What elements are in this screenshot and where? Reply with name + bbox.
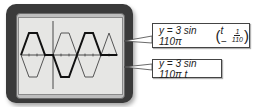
equation-var: t − bbox=[221, 25, 231, 47]
fraction-denominator: 110 bbox=[232, 36, 243, 43]
equation-prefix: y = 3 sin 110π bbox=[159, 25, 216, 47]
fraction-numerator: 1 bbox=[234, 28, 240, 36]
paren-close: ) bbox=[244, 28, 249, 43]
callout-shifted-equation: y = 3 sin 110π ( t − 1 110 ) bbox=[152, 23, 250, 48]
callout-base-equation: y = 3 sin 110π t bbox=[152, 59, 222, 78]
callout-leaders bbox=[0, 0, 256, 107]
equation-text: y = 3 sin 110π t bbox=[159, 58, 221, 80]
fraction: 1 110 bbox=[232, 28, 243, 43]
